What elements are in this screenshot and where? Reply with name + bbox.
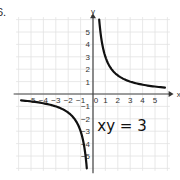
x-tick-label: 2: [116, 96, 121, 105]
equation-label: xy = 3: [97, 117, 146, 135]
x-tick-label: 5: [153, 96, 158, 105]
y-tick-label: 5: [86, 28, 91, 37]
tick-labels: xy−5−4−3−2−101234554321−1−2−3−4−5: [26, 7, 180, 161]
x-tick-label: −2: [64, 96, 74, 105]
axes: [14, 13, 174, 173]
x-tick-label: −3: [51, 96, 61, 105]
y-tick-label: −2: [81, 115, 91, 124]
y-tick-label: 2: [86, 65, 91, 74]
y-tick-label: 1: [86, 78, 91, 87]
x-axis-arrow-icon: [169, 91, 174, 97]
y-tick-label: 3: [86, 53, 91, 62]
y-tick-label: −1: [81, 102, 91, 111]
x-tick-label: 4: [140, 96, 145, 105]
x-axis-label: x: [177, 90, 180, 99]
x-tick-label: 0: [94, 96, 99, 105]
y-tick-label: 4: [86, 40, 91, 49]
x-tick-label: 1: [103, 96, 108, 105]
y-axis-label: y: [91, 7, 95, 16]
hyperbola-chart: xy−5−4−3−2−101234554321−1−2−3−4−5 xy = 3: [0, 0, 180, 180]
x-tick-label: 3: [128, 96, 133, 105]
